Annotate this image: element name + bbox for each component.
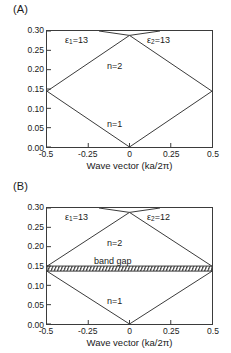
- band-label-n2-a: n=2: [107, 61, 122, 71]
- x-tick-label: 0.25: [163, 327, 180, 336]
- band-structure-svg-b: [47, 208, 212, 324]
- y-tick-label: 0.30: [16, 26, 44, 35]
- epsilon1-label-b: ε1=13: [65, 212, 88, 223]
- epsilon-value: =13: [155, 35, 170, 45]
- axis-tickmarks-a: [47, 31, 171, 147]
- y-tick-label: 0.20: [16, 242, 44, 251]
- x-axis-title-b: Wave vector (ka/2π): [46, 337, 213, 348]
- epsilon1-label-a: ε1=13: [65, 35, 88, 46]
- band-gap-region-b: [47, 266, 212, 271]
- y-tick-label: 0.25: [16, 223, 44, 232]
- band-label-n2-b: n=2: [107, 238, 122, 248]
- x-tick-label: 0.5: [207, 150, 219, 159]
- y-tick-label: 0.15: [16, 85, 44, 94]
- panel-b: (B) Frequency (ωa/2πc) 0.30 0.25 0.20 0.…: [0, 177, 231, 353]
- band-structure-svg-a: [47, 31, 212, 147]
- y-tick-label: 0.20: [16, 65, 44, 74]
- y-tick-label: 0.05: [16, 301, 44, 310]
- x-tick-label: -0.25: [78, 150, 97, 159]
- x-axis-title-a: Wave vector (ka/2π): [46, 160, 213, 171]
- y-tick-label: 0.30: [16, 203, 44, 212]
- x-tick-label: 0: [127, 150, 132, 159]
- epsilon-subscript: 2: [151, 215, 155, 222]
- y-tick-label: 0.25: [16, 46, 44, 55]
- epsilon-subscript: 1: [69, 215, 73, 222]
- x-tick-label: 0.25: [163, 150, 180, 159]
- y-tick-label: 0.15: [16, 262, 44, 271]
- x-tick-label: -0.5: [39, 150, 54, 159]
- x-tick-label: 0: [127, 327, 132, 336]
- band-label-n1-a: n=1: [107, 119, 122, 129]
- epsilon-value: =13: [73, 212, 88, 222]
- epsilon2-label-b: ε2=12: [147, 212, 170, 223]
- x-tick-label: 0.5: [207, 327, 219, 336]
- plot-area-a: ε1=13 ε2=13 n=2 n=1: [46, 30, 213, 148]
- y-tick-label: 0.10: [16, 282, 44, 291]
- x-tick-label: -0.25: [78, 327, 97, 336]
- band-gap-label-b: band gap: [94, 256, 132, 266]
- panel-a-label: (A): [13, 3, 28, 15]
- epsilon-value: =13: [73, 35, 88, 45]
- band-n1-b: [47, 271, 212, 324]
- y-tick-label: 0.05: [16, 124, 44, 133]
- epsilon-subscript: 1: [69, 38, 73, 45]
- panel-b-label: (B): [13, 180, 28, 192]
- plot-area-b: ε1=13 ε2=12 n=2 n=1 band gap: [46, 207, 213, 325]
- y-tick-label: 0.10: [16, 105, 44, 114]
- band-n1-a: [47, 91, 212, 147]
- band-label-n1-b: n=1: [107, 296, 122, 306]
- x-tick-label: -0.5: [39, 327, 54, 336]
- epsilon-subscript: 2: [151, 38, 155, 45]
- epsilon2-label-a: ε2=13: [147, 35, 170, 46]
- epsilon-value: =12: [155, 212, 170, 222]
- panel-a: (A) Frequency (ωa/2πc) 0.30 0.25 0.20 0.…: [0, 0, 231, 176]
- y-axis-ticks-a: 0.30 0.25 0.20 0.15 0.10 0.05 0.00: [14, 30, 44, 148]
- y-axis-ticks-b: 0.30 0.25 0.20 0.15 0.10 0.05 0.00: [14, 207, 44, 325]
